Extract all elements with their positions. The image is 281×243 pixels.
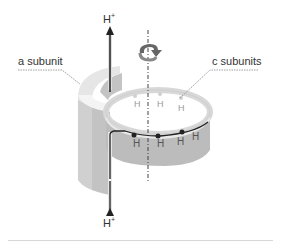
ring-residue-label: H [192,131,199,142]
atp-synthase-diagram: H H H H H H H [0,0,281,243]
proton-top-label: H+ [103,12,115,25]
ring-residue-label: H [134,99,141,109]
ring-residue-label: H [133,138,140,149]
proton-bottom-label: H+ [103,216,115,229]
ring-residue-label: H [157,99,164,109]
c-subunits-label: c subunits [212,55,262,67]
ring-residue-label: H [177,136,184,147]
a-subunit-leader [18,70,80,84]
bottom-divider [8,240,273,241]
ring-residue-label: H [157,138,164,149]
ring-residue-label: H [178,103,185,113]
a-subunit-label: a subunit [18,55,63,67]
rotation-arrow-icon [140,44,162,60]
